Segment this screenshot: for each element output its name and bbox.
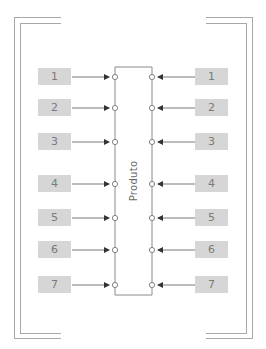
left-input-5: 5 (38, 209, 71, 226)
right-input-1: 1 (195, 68, 228, 85)
left-input-3: 3 (38, 133, 71, 150)
right-input-5: 5 (195, 209, 228, 226)
right-input-3: 3 (195, 133, 228, 150)
right-input-6: 6 (195, 241, 228, 258)
left-input-6: 6 (38, 241, 71, 258)
left-input-1: 1 (38, 68, 71, 85)
left-input-4: 4 (38, 175, 71, 192)
left-arrows (72, 77, 109, 285)
right-input-2: 2 (195, 99, 228, 116)
product-label: Produto (128, 161, 139, 202)
right-arrows (158, 77, 195, 285)
right-input-7: 7 (195, 276, 228, 293)
left-input-2: 2 (38, 99, 71, 116)
right-input-4: 4 (195, 175, 228, 192)
left-input-7: 7 (38, 276, 71, 293)
